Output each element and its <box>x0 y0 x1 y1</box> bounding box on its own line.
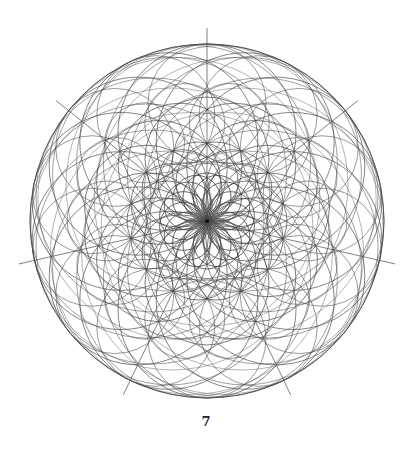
rosette-diagram <box>0 0 412 450</box>
figure-caption: 7 <box>0 414 412 429</box>
rosette-circle <box>183 221 231 269</box>
rosette-circle <box>77 224 157 304</box>
rosette-circle <box>257 138 337 218</box>
rosette-circle <box>257 224 337 304</box>
center-point <box>205 219 209 223</box>
rosette-circle <box>77 138 157 218</box>
